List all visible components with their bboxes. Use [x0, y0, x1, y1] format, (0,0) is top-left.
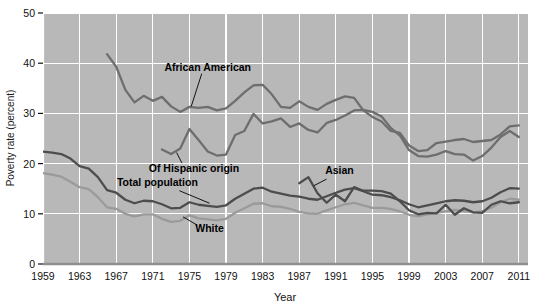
x-tick-label: 2003 [434, 270, 458, 282]
y-tick-label: 10 [23, 208, 35, 220]
x-axis-title: Year [274, 291, 297, 303]
x-tick-label: 1991 [324, 270, 348, 282]
x-tick-label: 2011 [508, 270, 531, 282]
series-label-african-american: African American [164, 61, 251, 73]
chart-canvas: 01020304050 1959196319671971197519791983… [0, 0, 549, 308]
poverty-rate-line-chart: 01020304050 1959196319671971197519791983… [0, 0, 549, 308]
series-label-of-hispanic-origin: Of Hispanic origin [149, 162, 239, 174]
y-tick-label: 20 [23, 158, 35, 170]
y-tick-label: 0 [29, 258, 35, 270]
y-tick-label: 30 [23, 107, 35, 119]
x-tick-label: 1979 [214, 270, 238, 282]
x-tick-label: 1959 [31, 270, 55, 282]
x-tick-label: 1983 [251, 270, 275, 282]
x-tick-label: 2007 [471, 270, 495, 282]
x-tick-label: 1963 [68, 270, 92, 282]
x-tick-label: 1971 [141, 270, 165, 282]
x-tick-label: 1975 [178, 270, 202, 282]
x-tick-label: 1995 [361, 270, 385, 282]
y-tick-label: 50 [23, 7, 35, 19]
y-axis-title: Poverty rate (percent) [5, 90, 16, 187]
y-tick-label: 40 [23, 57, 35, 69]
x-tick-label: 1999 [397, 270, 421, 282]
series-label-total-population: Total population [117, 176, 198, 188]
x-tick-label: 1967 [105, 270, 129, 282]
series-label-asian: Asian [325, 164, 354, 176]
series-label-white: White [195, 222, 224, 234]
x-tick-label: 1987 [288, 270, 312, 282]
